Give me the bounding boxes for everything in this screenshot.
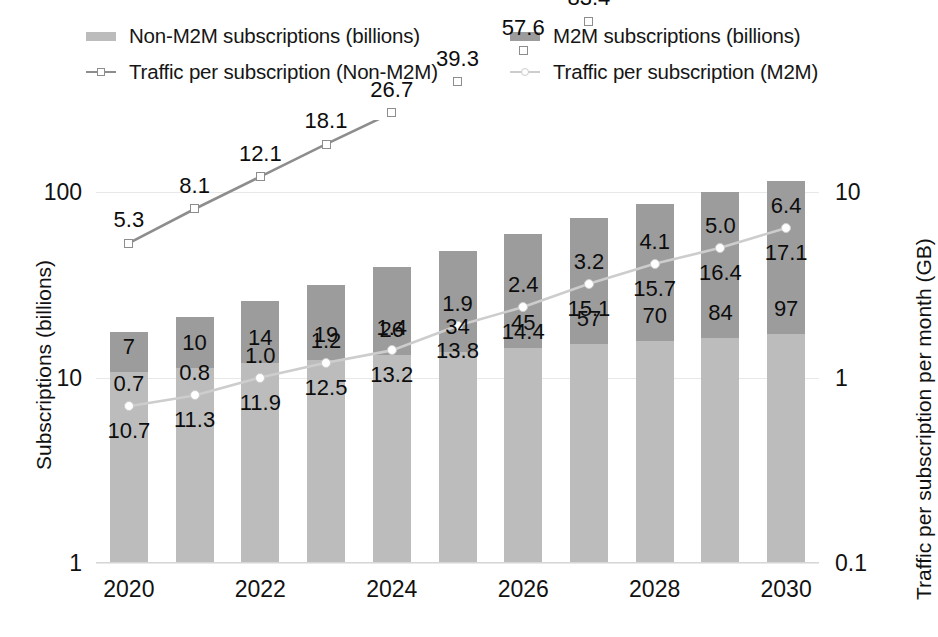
legend-label: Traffic per subscription (M2M) [553,60,818,84]
line-marker-square[interactable] [453,77,462,86]
traffic-value-label-non-m2m: 26.7 [349,79,435,101]
y-axis-right-tick-label: 0.1 [819,552,867,575]
y-axis-left-title: Subscriptions (billions) [32,260,56,470]
legend-swatch-line-square-icon [86,66,116,78]
traffic-value-label-m2m: 2.4 [480,274,566,296]
x-axis-tick-label: 2026 [463,578,583,601]
x-axis-tick-label: 2024 [332,578,452,601]
traffic-value-label-m2m: 6.4 [743,195,829,217]
line-marker-circle[interactable] [255,373,265,383]
bar-value-label-non-m2m: 16.4 [677,262,763,284]
x-axis-line [96,562,819,563]
traffic-value-label-m2m: 3.2 [546,251,632,273]
line-marker-square[interactable] [256,172,265,181]
line-marker-square[interactable] [190,204,199,213]
line-marker-circle[interactable] [321,358,331,368]
y-axis-left-tick-label: 1 [69,552,96,575]
bar-value-label-non-m2m: 13.8 [415,340,501,362]
legend-swatch-bar-icon [86,32,116,41]
gridline [96,563,819,564]
traffic-value-label-non-m2m: 83.4 [546,0,632,9]
bar-value-label-non-m2m: 13.2 [349,364,435,386]
plot-area: 110100 0.1110 710.71011.31411.91912.5261… [96,120,819,563]
line-marker-square[interactable] [519,46,528,55]
legend-label: M2M subscriptions (billions) [553,24,800,48]
line-marker-square[interactable] [387,108,396,117]
x-axis-tick-label: 2022 [200,578,320,601]
traffic-value-label-non-m2m: 39.3 [415,48,501,70]
line-marker-square[interactable] [584,17,593,26]
bar-value-label-non-m2m: 17.1 [743,242,829,264]
line-marker-circle[interactable] [650,259,660,269]
traffic-value-label-non-m2m: 12.1 [217,143,303,165]
y-axis-left-tick-label: 100 [44,181,96,204]
traffic-value-label-non-m2m: 8.1 [152,175,238,197]
y-axis-right-title: Traffic per subscription per month (GB) [912,238,936,600]
legend-swatch-line-circle-icon [510,66,540,78]
legend-item-non-m2m-subscriptions[interactable]: Non-M2M subscriptions (billions) [86,24,420,48]
x-axis-tick-label: 2028 [595,578,715,601]
traffic-value-label-m2m: 1.9 [415,293,501,315]
legend-label: Non-M2M subscriptions (billions) [129,24,420,48]
traffic-value-label-non-m2m: 5.3 [86,209,172,231]
traffic-value-label-non-m2m: 18.1 [283,110,369,132]
legend-item-traffic-m2m[interactable]: Traffic per subscription (M2M) [510,60,818,84]
x-axis-tick-label: 2030 [726,578,846,601]
traffic-value-label-m2m: 1.4 [349,317,435,339]
bar-value-label-m2m: 97 [743,298,829,320]
line-marker-circle[interactable] [584,279,594,289]
traffic-value-label-m2m: 5.0 [677,215,763,237]
line-marker-square[interactable] [124,239,133,248]
traffic-value-label-non-m2m: 57.6 [480,17,566,39]
chart-figure: Non-M2M subscriptions (billions) M2M sub… [0,0,938,637]
x-axis-tick-label: 2020 [69,578,189,601]
y-axis-right-tick-label: 1 [819,367,848,390]
line-marker-square[interactable] [322,140,331,149]
